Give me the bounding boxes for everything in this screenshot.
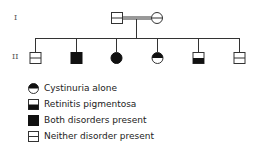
legend: Cystinuria alone Retinitis pigmentosa Bo… [28, 80, 154, 144]
empty-square-icon [28, 131, 39, 142]
legend-item-both: Both disorders present [28, 112, 154, 128]
legend-label: Retinitis pigmentosa [44, 99, 136, 109]
legend-item-neither: Neither disorder present [28, 128, 154, 144]
daughter-2-cystinuria-alone [152, 53, 163, 64]
legend-label: Neither disorder present [44, 131, 154, 141]
father-neither-disorder [112, 13, 123, 24]
legend-label: Cystinuria alone [44, 83, 117, 93]
legend-item-retinitis: Retinitis pigmentosa [28, 96, 154, 112]
filled-square-icon [28, 115, 39, 126]
half-filled-circle-icon [28, 83, 39, 94]
half-filled-square-icon [28, 99, 39, 110]
daughter-1-both-disorders [111, 53, 122, 64]
son-2-both-disorders [71, 53, 82, 64]
son-4-neither-disorder [234, 53, 245, 64]
mother-neither-disorder [152, 13, 163, 24]
legend-item-cystinuria: Cystinuria alone [28, 80, 154, 96]
legend-label: Both disorders present [44, 115, 146, 125]
son-3-retinitis-pigmentosa [193, 53, 204, 64]
son-1-neither-disorder [30, 53, 41, 64]
